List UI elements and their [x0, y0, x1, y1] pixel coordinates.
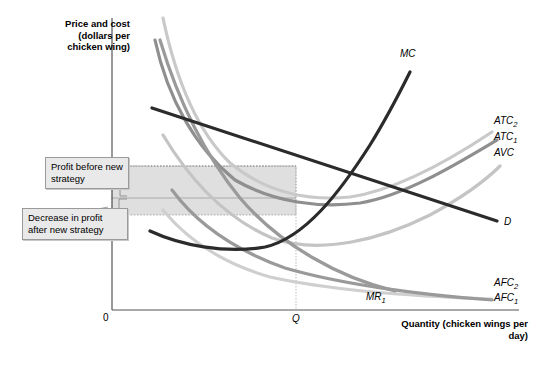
callout-profit-before: Profit before new strategy [45, 157, 129, 189]
afc2-curve-label: AFC2 [494, 277, 518, 291]
decrease-in-profit-region [112, 198, 296, 215]
quantity-tick-label: Q [292, 313, 300, 324]
mr1-curve-label: MR1 [366, 291, 386, 305]
profit-before-region [112, 166, 296, 198]
avc-curve-label: AVC [494, 147, 514, 158]
figure-container: Price and cost (dollars per chicken wing… [0, 0, 539, 367]
origin-label: 0 [103, 312, 109, 323]
y-axis-title: Price and cost (dollars per chicken wing… [55, 18, 130, 53]
callout-decrease-after: Decrease in profit after new strategy [22, 208, 128, 240]
curve-mr1 [160, 40, 395, 291]
curve-afc2 [163, 210, 492, 299]
demand-curve-label: D [504, 216, 511, 227]
x-axis-title: Quantity (chicken wings per day) [398, 318, 528, 341]
mc-curve-label: MC [400, 48, 416, 59]
afc1-curve-label: AFC1 [494, 292, 518, 306]
atc2-curve-label: ATC2 [494, 115, 517, 129]
atc1-curve-label: ATC1 [494, 131, 517, 145]
